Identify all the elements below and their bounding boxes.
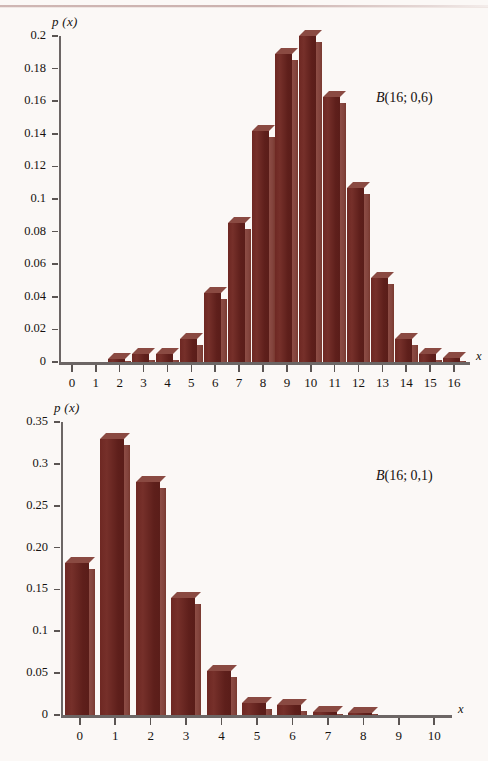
bar-top-face <box>419 348 442 354</box>
bar-front-face <box>348 713 372 715</box>
x-axis-tick <box>167 365 169 372</box>
bar-front-face <box>371 278 388 362</box>
y-axis-line <box>61 422 64 718</box>
bar-front-face <box>419 354 436 362</box>
x-axis-label: 4 <box>202 729 242 742</box>
y-axis-tick <box>52 263 58 265</box>
bar <box>252 131 269 362</box>
bar-side-face <box>245 229 251 362</box>
y-axis-tick <box>52 198 58 200</box>
bar <box>443 358 460 362</box>
x-axis-label: 5 <box>237 729 277 742</box>
bar-side-face <box>337 714 343 715</box>
y-axis-label: 0.20 <box>0 541 48 554</box>
y-axis-label: 0.16 <box>0 94 46 107</box>
bar-top-face <box>277 699 307 705</box>
y-axis-tick <box>52 166 58 168</box>
bar-side-face <box>316 42 322 362</box>
bar-side-face <box>124 445 130 715</box>
y-axis-label: 0.35 <box>0 415 48 428</box>
y-axis-tick <box>52 100 58 102</box>
bar-front-face <box>277 705 301 715</box>
bar-top-face <box>313 706 343 712</box>
x-axis-tick <box>262 365 264 372</box>
y-axis-tick <box>54 547 60 549</box>
y-axis-tick <box>52 296 58 298</box>
bar-top-face <box>100 433 130 439</box>
bar-top-face <box>443 352 466 358</box>
x-axis-tick <box>310 365 312 372</box>
bar-top-face <box>108 353 131 359</box>
bar-top-face <box>180 333 203 339</box>
x-axis-tick <box>429 365 431 372</box>
x-axis-tick <box>150 718 152 725</box>
bar-side-face <box>149 360 155 362</box>
x-axis-label: 9 <box>379 729 419 742</box>
chart-annotation: B(16; 0,6) <box>376 90 433 106</box>
y-axis-label: 0.2 <box>0 29 46 42</box>
bar-side-face <box>231 677 237 715</box>
bar-side-face <box>460 361 466 362</box>
y-axis-label: 0.05 <box>0 666 48 679</box>
bar-top-face <box>371 272 394 278</box>
y-axis-tick <box>52 361 58 363</box>
bar-front-face <box>242 703 266 715</box>
y-axis-label: 0.12 <box>0 159 46 172</box>
bar <box>299 36 316 362</box>
y-axis-tick <box>52 329 58 331</box>
bar-side-face <box>160 488 166 715</box>
bar-side-face <box>173 360 179 362</box>
x-axis-tick <box>334 365 336 372</box>
x-axis-tick <box>191 365 193 372</box>
x-axis-tick <box>214 365 216 372</box>
x-axis-tick <box>221 718 223 725</box>
bar-top-face <box>171 592 201 598</box>
y-axis-label: 0.1 <box>0 624 48 637</box>
bar-side-face <box>292 60 298 362</box>
bar-front-face <box>313 712 337 715</box>
y-axis-tick <box>54 714 60 716</box>
x-axis-tick <box>71 365 73 372</box>
bar <box>275 54 292 362</box>
bar <box>108 359 125 362</box>
bar-front-face <box>323 97 340 362</box>
bar <box>180 339 197 362</box>
bar-front-face <box>132 354 149 362</box>
x-axis-label: 1 <box>95 729 135 742</box>
x-axis-tick <box>119 365 121 372</box>
y-axis-tick <box>52 133 58 135</box>
x-axis-label: 7 <box>308 729 348 742</box>
bar <box>171 598 195 715</box>
bar-front-face <box>299 36 316 362</box>
y-axis-tick <box>52 231 58 233</box>
x-axis-tick <box>358 365 360 372</box>
bar-side-face <box>388 284 394 362</box>
bar-top-face <box>228 217 251 223</box>
bar-front-face <box>204 293 221 362</box>
bar-front-face <box>275 54 292 362</box>
y-axis-label: 0.18 <box>0 62 46 75</box>
x-axis-tick <box>327 718 329 725</box>
bar-side-face <box>266 709 272 715</box>
x-axis-tick <box>405 365 407 372</box>
bar-side-face <box>197 345 203 362</box>
bar <box>204 293 221 362</box>
x-axis-tick <box>256 718 258 725</box>
x-axis-tick <box>433 718 435 725</box>
bar-front-face <box>108 359 125 362</box>
bar-side-face <box>125 361 131 362</box>
y-axis-label: 0 <box>0 355 46 368</box>
bar-side-face <box>436 360 442 362</box>
y-axis-label: 0.25 <box>0 499 48 512</box>
bar <box>348 713 372 715</box>
y-axis-tick <box>52 35 58 37</box>
bar-side-face <box>412 345 418 362</box>
bar <box>156 354 173 362</box>
bar <box>100 439 124 715</box>
bar <box>371 278 388 362</box>
bar-front-face <box>347 188 364 362</box>
y-axis-label: 0.3 <box>0 457 48 470</box>
bar-top-face <box>275 48 298 54</box>
bar-top-face <box>132 348 155 354</box>
x-axis-tick <box>95 365 97 372</box>
